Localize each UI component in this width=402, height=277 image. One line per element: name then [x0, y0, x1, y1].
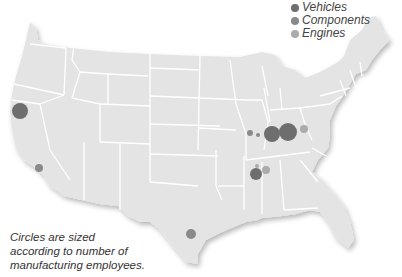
components-dot-icon — [291, 17, 299, 25]
site-circle-components — [35, 164, 43, 172]
site-circle-engines — [262, 166, 270, 174]
site-circle-engines — [300, 125, 308, 133]
site-circle-vehicles — [264, 126, 280, 142]
site-circle-vehicles — [12, 103, 28, 119]
engines-dot-icon — [291, 30, 299, 38]
site-circle-components — [247, 130, 253, 136]
legend-item-engines: Engines — [291, 27, 370, 40]
site-circle-vehicles — [250, 168, 262, 180]
note-line: Circles are sized — [10, 230, 210, 244]
size-note: Circles are sized according to number of… — [10, 230, 210, 272]
vehicles-dot-icon — [291, 4, 299, 12]
note-line: according to number of — [10, 244, 210, 258]
site-circle-vehicles — [279, 123, 297, 141]
legend-label: Engines — [302, 27, 345, 40]
site-circle-engines — [255, 164, 259, 168]
site-circle-components — [256, 133, 260, 137]
note-line: manufacturing employees. — [10, 258, 210, 272]
legend: Vehicles Components Engines — [291, 1, 370, 40]
